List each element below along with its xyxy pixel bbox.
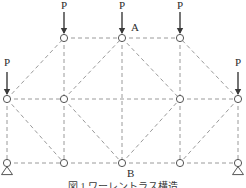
truss-joint-T1 bbox=[60, 34, 67, 41]
truss-joint-B4 bbox=[234, 159, 241, 166]
truss-joint-B2 bbox=[118, 159, 125, 166]
pin-support-B4 bbox=[233, 167, 244, 175]
load-arrow-head bbox=[235, 89, 241, 95]
truss-member bbox=[180, 38, 238, 99]
load-label-P-left: P bbox=[4, 57, 10, 68]
truss-member bbox=[64, 38, 122, 99]
load-arrow-head bbox=[177, 28, 183, 34]
load-label-P-right: P bbox=[235, 57, 241, 68]
load-label-P-top3: P bbox=[177, 0, 183, 11]
truss-joint-M4 bbox=[234, 95, 241, 102]
truss-joint-M1 bbox=[60, 95, 67, 102]
truss-joint-M3 bbox=[176, 95, 183, 102]
truss-member bbox=[7, 38, 64, 99]
label-A: A bbox=[131, 22, 139, 33]
load-arrow-head bbox=[61, 28, 67, 34]
truss-member bbox=[122, 99, 180, 163]
truss-diagram-canvas bbox=[0, 0, 246, 188]
load-arrow-head bbox=[4, 89, 10, 95]
load-arrow-head bbox=[119, 28, 125, 34]
pin-support-B0 bbox=[2, 167, 13, 175]
truss-joint-B0 bbox=[3, 159, 10, 166]
truss-supports bbox=[2, 167, 244, 175]
truss-joint-B1 bbox=[60, 159, 67, 166]
load-label-P-top2: P bbox=[119, 0, 125, 11]
truss-figure: PPPPPAB 図 1 ワーレントラス構造 bbox=[0, 0, 246, 188]
truss-members bbox=[7, 38, 238, 163]
truss-member bbox=[7, 99, 64, 163]
truss-member bbox=[180, 99, 238, 163]
truss-joint-T2 bbox=[118, 34, 125, 41]
load-label-P-top1: P bbox=[61, 0, 67, 11]
truss-member bbox=[122, 38, 180, 99]
truss-member bbox=[64, 99, 122, 163]
figure-caption: 図 1 ワーレントラス構造 bbox=[0, 178, 246, 188]
truss-joint-M0 bbox=[3, 95, 10, 102]
truss-joint-T3 bbox=[176, 34, 183, 41]
truss-joint-B3 bbox=[176, 159, 183, 166]
